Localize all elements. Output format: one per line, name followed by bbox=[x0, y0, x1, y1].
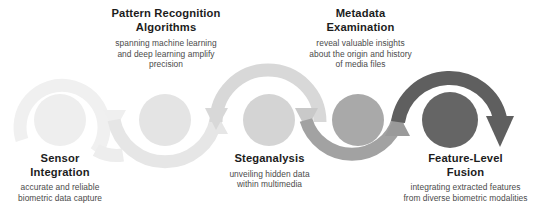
step-description: spanning machine learning and deep learn… bbox=[86, 38, 246, 69]
node-circle-step-1[interactable] bbox=[34, 94, 86, 146]
step-label-pattern-recognition-algorithms[interactable]: Pattern Recognition Algorithms spanning … bbox=[86, 7, 246, 69]
diagram-canvas: Sensor Integration accurate and reliable… bbox=[0, 0, 537, 216]
node-circle-step-4[interactable] bbox=[332, 94, 384, 146]
step-description: unveiling hidden data within multimedia bbox=[207, 169, 332, 190]
step-title: Steganalysis bbox=[207, 152, 332, 166]
step-label-sensor-integration[interactable]: Sensor Integration accurate and reliable… bbox=[5, 152, 115, 203]
node-circle-step-3[interactable] bbox=[243, 94, 295, 146]
step-title: Pattern Recognition Algorithms bbox=[86, 7, 246, 34]
step-title: Sensor Integration bbox=[5, 152, 115, 179]
node-circle-step-5[interactable] bbox=[422, 92, 478, 148]
step-label-feature-level-fusion[interactable]: Feature-Level Fusion integrating extract… bbox=[394, 152, 537, 203]
node-circle-step-2[interactable] bbox=[139, 94, 191, 146]
step-label-metadata-examination[interactable]: Metadata Examination reveal valuable ins… bbox=[283, 7, 438, 69]
step-description: accurate and reliable biometric data cap… bbox=[5, 182, 115, 203]
step-description: reveal valuable insights about the origi… bbox=[283, 38, 438, 69]
step-description: integrating extracted features from dive… bbox=[394, 182, 537, 203]
step-title: Feature-Level Fusion bbox=[394, 152, 537, 179]
step-title: Metadata Examination bbox=[283, 7, 438, 34]
arrowhead-down-icon bbox=[486, 116, 514, 147]
step-label-steganalysis[interactable]: Steganalysis unveiling hidden data withi… bbox=[207, 152, 332, 189]
